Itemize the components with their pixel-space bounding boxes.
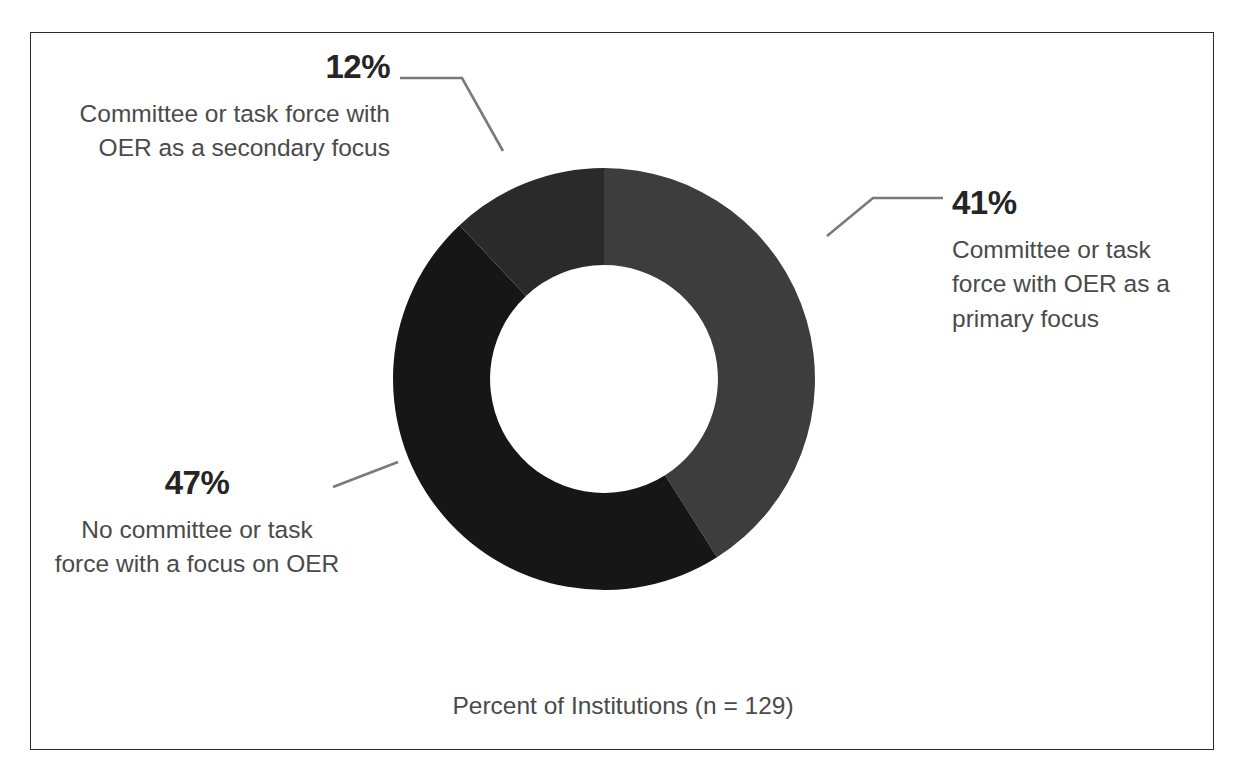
leader-line-none <box>333 462 398 487</box>
chart-caption: Percent of Institutions (n = 129) <box>0 692 1246 720</box>
callout-none-description: No committee or task force with a focus … <box>52 513 342 583</box>
callout-secondary-percent: 12% <box>60 50 390 85</box>
callout-primary-description: Committee or task force with OER as a pr… <box>952 233 1202 337</box>
callout-primary: 41% Committee or task force with OER as … <box>952 186 1202 337</box>
leader-line-primary <box>827 198 943 236</box>
callout-none-percent: 47% <box>52 466 342 501</box>
callout-secondary-description: Committee or task force with OER as a se… <box>60 97 390 167</box>
callout-secondary: 12% Committee or task force with OER as … <box>60 50 390 166</box>
callout-primary-percent: 41% <box>952 186 1202 221</box>
leader-line-secondary <box>400 78 503 151</box>
callout-none: 47% No committee or task force with a fo… <box>52 466 342 582</box>
figure-container: 12% Committee or task force with OER as … <box>0 0 1246 784</box>
